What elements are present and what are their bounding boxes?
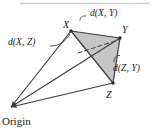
vertex-label-y: Y (122, 25, 128, 35)
distance-label-xz: d(X, Z) (8, 38, 36, 48)
vertex-point-y (118, 36, 121, 39)
distance-triangle-figure: d(X, Y) d(X, Z) d(Z, Y) X Y Z Origin (0, 0, 166, 135)
origin-label: Origin (2, 116, 31, 127)
vertex-point-z (111, 81, 114, 84)
vertex-point-x (69, 29, 72, 32)
distance-label-zy: d(Z, Y) (113, 64, 140, 74)
distance-label-xy: d(X, Y) (90, 9, 118, 19)
vertex-label-x: X (63, 20, 69, 30)
vertex-label-z: Z (106, 90, 112, 100)
